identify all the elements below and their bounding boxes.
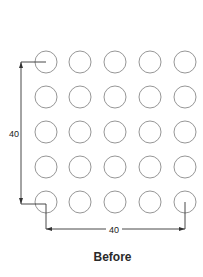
arrowhead-right-icon: [179, 227, 185, 231]
hole-circle-r5-c4: [139, 191, 161, 213]
hole-circle-r4-c2: [69, 156, 91, 178]
hole-circle-r1-c2: [69, 51, 91, 73]
hole-circle-r3-c5: [174, 121, 196, 143]
hole-circle-r1-c5: [174, 51, 196, 73]
hole-circle-r5-c2: [69, 191, 91, 213]
diagram-caption: Before: [0, 250, 203, 264]
horizontal-dimension-label: 40: [109, 225, 119, 235]
hole-circle-r4-c1: [35, 156, 57, 178]
arrowhead-up-icon: [19, 62, 23, 68]
hole-circle-r2-c2: [69, 86, 91, 108]
hole-circle-r2-c5: [174, 86, 196, 108]
vertical-dimension-label: 40: [9, 129, 19, 139]
hole-circle-r3-c1: [35, 121, 57, 143]
hole-circle-r4-c5: [174, 156, 196, 178]
hole-circle-r5-c3: [104, 191, 126, 213]
hole-circle-r4-c4: [139, 156, 161, 178]
arrowhead-down-icon: [19, 198, 23, 204]
arrowhead-left-icon: [46, 227, 52, 231]
hole-circle-r1-c3: [104, 51, 126, 73]
hole-circle-r1-c4: [139, 51, 161, 73]
hole-circle-r3-c3: [104, 121, 126, 143]
hole-circle-r3-c2: [69, 121, 91, 143]
hole-circle-r2-c3: [104, 86, 126, 108]
hole-circle-r3-c4: [139, 121, 161, 143]
hole-circle-r2-c1: [35, 86, 57, 108]
hole-circle-r2-c4: [139, 86, 161, 108]
pattern-diagram: 40 40: [0, 0, 203, 277]
hole-circle-r4-c3: [104, 156, 126, 178]
circle-grid: [35, 51, 196, 213]
